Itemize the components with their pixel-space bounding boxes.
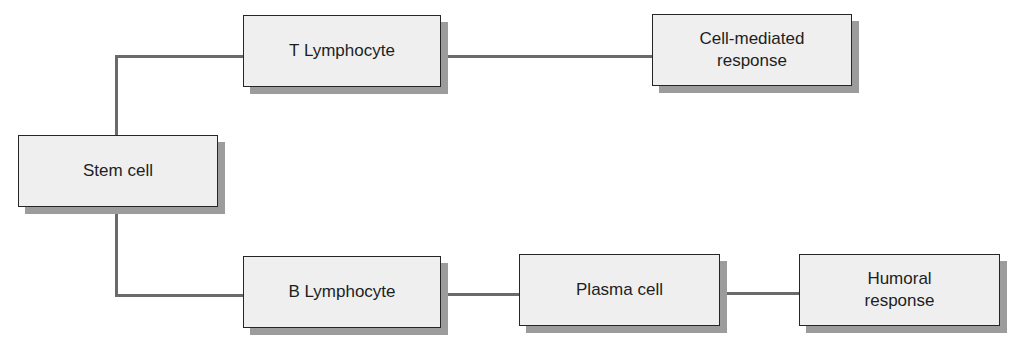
node-humoral-response: Humoral response bbox=[799, 254, 1000, 326]
connector-t-to-cell-mediated bbox=[448, 55, 653, 58]
node-cell-mediated-response: Cell-mediated response bbox=[652, 14, 852, 86]
connector-stem-to-t-vertical bbox=[115, 55, 118, 136]
node-plasma-cell: Plasma cell bbox=[519, 254, 720, 326]
connector-stem-to-b-horizontal bbox=[115, 294, 244, 297]
connector-plasma-to-humoral bbox=[727, 292, 800, 295]
node-b-lymphocyte: B Lymphocyte bbox=[243, 256, 441, 328]
node-stem-cell: Stem cell bbox=[18, 135, 218, 207]
connector-stem-to-b-vertical bbox=[115, 207, 118, 297]
connector-b-to-plasma bbox=[448, 293, 520, 296]
node-t-lymphocyte: T Lymphocyte bbox=[243, 15, 441, 87]
connector-stem-to-t-horizontal bbox=[115, 55, 244, 58]
